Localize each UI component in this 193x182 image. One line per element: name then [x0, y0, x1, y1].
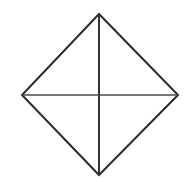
diamond-figure-svg — [0, 0, 193, 182]
diamond-figure-canvas — [0, 0, 193, 182]
